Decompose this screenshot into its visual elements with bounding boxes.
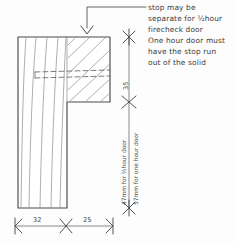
note-line-2: separate for ½hour	[148, 14, 223, 23]
note-leader-line	[81, 7, 146, 34]
stop-note-text: stop may be separate for ½hour firecheck…	[148, 3, 225, 67]
note-line-6: out of the solid	[148, 58, 206, 67]
note-line-4: One hour door must	[148, 36, 225, 45]
frame-section-outline	[18, 37, 110, 208]
dim-tick-top	[123, 29, 135, 45]
dim-label-stop-depth: 35	[122, 82, 130, 90]
section-drawing: stop may be separate for ½hour firecheck…	[0, 0, 236, 244]
note-line-5: have the stop run	[148, 47, 216, 56]
horizontal-dimension-line	[15, 218, 113, 234]
frame-jamb-outline	[18, 37, 110, 208]
vertical-dimension-labels: 35 47mm for ½hour door 57mm for one hour…	[121, 82, 139, 205]
note-line-3: firecheck door	[148, 25, 204, 34]
dim-label-frame-width: 32	[33, 216, 41, 224]
dim-label-half-hour-door: 47mm for ½hour door	[121, 139, 127, 205]
dim-label-stop-width: 25	[83, 216, 91, 224]
horizontal-dimension-labels: 32 25	[33, 216, 91, 224]
dim-label-one-hour-door: 57mm for one hour door	[133, 132, 139, 205]
note-line-1: stop may be	[148, 3, 196, 12]
drawing-canvas: stop may be separate for ½hour firecheck…	[0, 0, 236, 244]
